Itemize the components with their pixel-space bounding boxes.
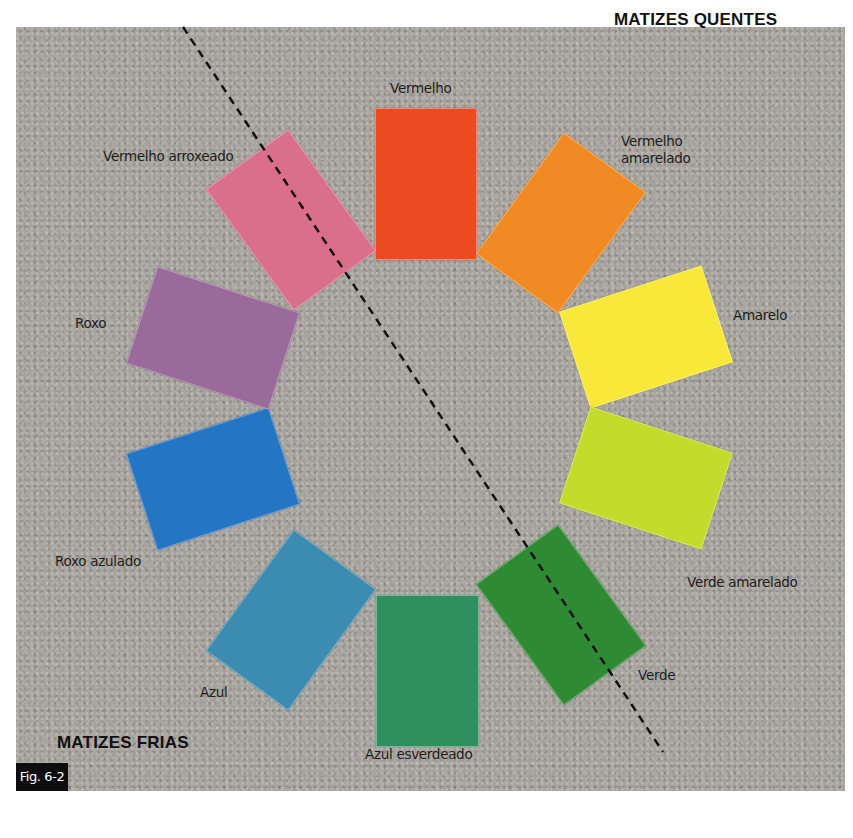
label-vermelho: Vermelho (390, 80, 451, 97)
label-azul: Azul (200, 684, 227, 701)
label-amarelo: Amarelo (733, 307, 787, 324)
label-verde-amarelado: Verde amarelado (687, 574, 798, 591)
label-roxo-azulado: Roxo azulado (55, 553, 141, 570)
label-verde: Verde (638, 667, 675, 684)
figure-tag: Fig. 6-2 (16, 763, 68, 791)
label-vermelho-amarelado: Vermelho amarelado (621, 133, 690, 167)
warm-cool-divider-line (0, 0, 853, 838)
label-azul-esverdeado: Azul esverdeado (365, 746, 472, 763)
label-roxo: Roxo (75, 315, 106, 332)
heading-matizes-quentes: MATIZES QUENTES (614, 10, 777, 30)
heading-matizes-frias: MATIZES FRIAS (57, 733, 189, 753)
label-vermelho-arroxeado: Vermelho arroxeado (103, 148, 233, 165)
